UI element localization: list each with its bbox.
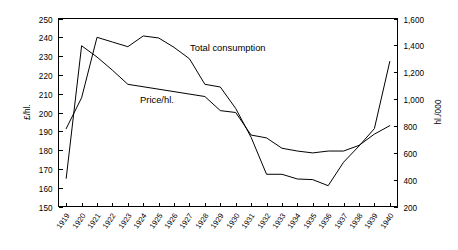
left-tick-label: 250 — [39, 16, 53, 25]
right-axis-title: hl./000 — [433, 99, 443, 124]
right-tick-label: 1,400 — [404, 42, 425, 51]
right-tick-label: 600 — [404, 150, 418, 159]
right-tick-label: 1,200 — [404, 69, 425, 78]
series-label-total-consumption: Total consumption — [190, 42, 266, 53]
left-tick-label: 180 — [39, 147, 53, 156]
left-tick-label: 210 — [39, 91, 53, 100]
left-axis-title: £/hl. — [22, 104, 32, 120]
chart-container: 150160170180190200210220230240250 200400… — [0, 0, 458, 250]
right-tick-label: 200 — [404, 204, 418, 213]
left-tick-label: 150 — [39, 204, 53, 213]
series-label-price-per-hl: Price/hl. — [140, 94, 174, 105]
right-tick-label: 1,000 — [404, 96, 425, 105]
right-tick-label: 1,600 — [404, 16, 425, 25]
left-tick-label: 160 — [39, 185, 53, 194]
right-tick-label: 400 — [404, 177, 418, 186]
left-tick-label: 240 — [39, 34, 53, 43]
line-chart: 150160170180190200210220230240250 200400… — [0, 0, 458, 250]
left-tick-label: 170 — [39, 166, 53, 175]
right-tick-label: 800 — [404, 123, 418, 132]
left-tick-label: 190 — [39, 128, 53, 137]
left-tick-label: 230 — [39, 53, 53, 62]
left-tick-label: 220 — [39, 72, 53, 81]
left-tick-label: 200 — [39, 110, 53, 119]
